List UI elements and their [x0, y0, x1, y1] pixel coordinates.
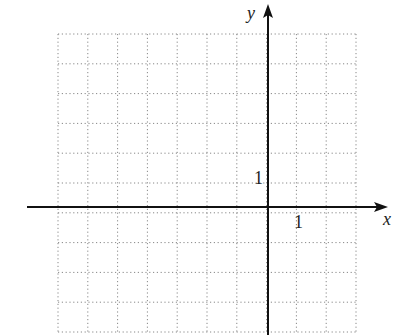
- x-axis: [27, 202, 388, 212]
- x-axis-label: x: [383, 210, 391, 228]
- coordinate-plane: [0, 0, 401, 335]
- y-axis-label: y: [247, 4, 255, 22]
- y-unit-tick-label: 1: [254, 169, 263, 187]
- x-unit-tick-label: 1: [294, 213, 303, 231]
- dotted-grid: [58, 34, 356, 332]
- y-axis: [263, 4, 273, 335]
